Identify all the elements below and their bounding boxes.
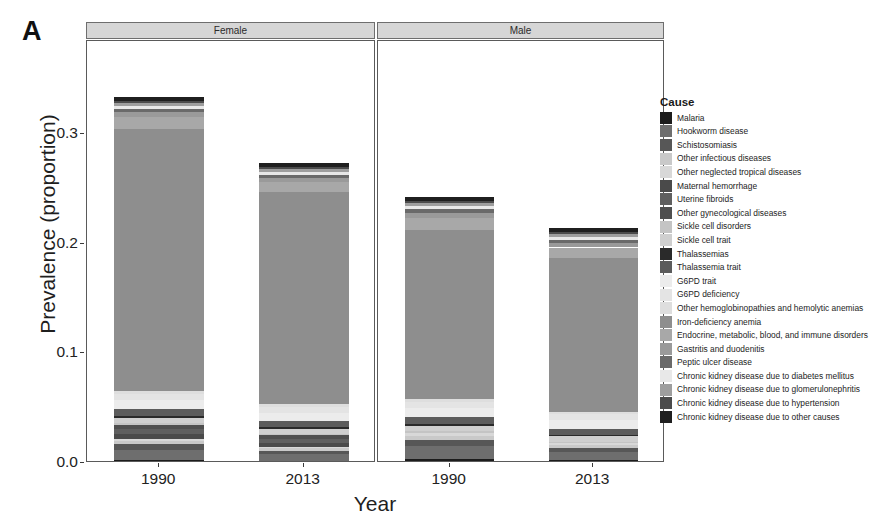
bar-segment[interactable] (549, 258, 638, 411)
legend-item[interactable]: Chronic kidney disease due to diabetes m… (660, 369, 870, 383)
bar-segment[interactable] (259, 169, 349, 172)
bar-segment[interactable] (549, 448, 638, 452)
bar-segment[interactable] (405, 230, 494, 399)
bar-segment[interactable] (114, 418, 204, 423)
bar-segment[interactable] (114, 444, 204, 449)
bar-segment[interactable] (259, 434, 349, 436)
stacked-bar[interactable] (259, 41, 349, 461)
legend-item[interactable]: Malaria (660, 111, 870, 125)
bar-segment[interactable] (259, 404, 349, 407)
bar-segment[interactable] (114, 460, 204, 461)
bar-segment[interactable] (405, 436, 494, 440)
bar-segment[interactable] (549, 436, 638, 441)
bar-segment[interactable] (259, 447, 349, 449)
bar-segment[interactable] (405, 459, 494, 461)
bar-segment[interactable] (259, 439, 349, 443)
bar-segment[interactable] (114, 394, 204, 401)
legend-item[interactable]: Maternal hemorrhage (660, 179, 870, 193)
bar-segment[interactable] (259, 435, 349, 439)
bar-segment[interactable] (259, 427, 349, 429)
bar-segment[interactable] (114, 434, 204, 438)
legend-item[interactable]: Peptic ulcer disease (660, 356, 870, 370)
bar-segment[interactable] (405, 446, 494, 459)
legend-item[interactable]: Sickle cell disorders (660, 220, 870, 234)
bar-segment[interactable] (259, 167, 349, 169)
bar-segment[interactable] (114, 429, 204, 434)
bar-segment[interactable] (114, 106, 204, 109)
legend-item[interactable]: Uterine fibroids (660, 193, 870, 207)
bar-segment[interactable] (405, 424, 494, 426)
bar-segment[interactable] (114, 103, 204, 106)
bar-segment[interactable] (114, 450, 204, 460)
bar-segment[interactable] (259, 192, 349, 404)
bar-segment[interactable] (114, 101, 204, 103)
bar-segment[interactable] (405, 203, 494, 206)
bar-segment[interactable] (259, 163, 349, 167)
bar-segment[interactable] (259, 175, 349, 177)
legend-item[interactable]: Gastritis and duodenitis (660, 342, 870, 356)
bar-segment[interactable] (405, 213, 494, 218)
bar-segment[interactable] (549, 443, 638, 445)
bar-segment[interactable] (259, 413, 349, 421)
legend-item[interactable]: Chronic kidney disease due to hypertensi… (660, 396, 870, 410)
legend-item[interactable]: Other gynecological diseases (660, 206, 870, 220)
bar-segment[interactable] (259, 429, 349, 434)
stacked-bar[interactable] (114, 41, 204, 461)
bar-segment[interactable] (405, 433, 494, 436)
bar-segment[interactable] (259, 443, 349, 446)
bar-segment[interactable] (259, 448, 349, 450)
bar-segment[interactable] (549, 445, 638, 448)
bar-segment[interactable] (114, 423, 204, 425)
bar-segment[interactable] (114, 129, 204, 391)
legend-item[interactable]: Hookworm disease (660, 125, 870, 139)
bar-segment[interactable] (114, 425, 204, 429)
bar-segment[interactable] (405, 426, 494, 431)
bar-segment[interactable] (549, 435, 638, 437)
bar-segment[interactable] (405, 206, 494, 209)
bar-segment[interactable] (114, 117, 204, 129)
bar-segment[interactable] (549, 420, 638, 428)
legend-item[interactable]: Other hemoglobinopathies and hemolytic a… (660, 301, 870, 315)
bar-segment[interactable] (114, 400, 204, 409)
stacked-bar[interactable] (405, 41, 494, 461)
bar-segment[interactable] (549, 414, 638, 420)
bar-segment[interactable] (549, 232, 638, 234)
bar-segment[interactable] (405, 218, 494, 230)
legend-item[interactable]: Sickle cell trait (660, 233, 870, 247)
bar-segment[interactable] (259, 451, 349, 454)
bar-segment[interactable] (405, 431, 494, 433)
legend-item[interactable]: Chronic kidney disease due to glomerulon… (660, 383, 870, 397)
bar-segment[interactable] (259, 407, 349, 413)
bar-segment[interactable] (549, 412, 638, 415)
bar-segment[interactable] (549, 248, 638, 259)
bar-segment[interactable] (114, 391, 204, 394)
bar-segment[interactable] (405, 197, 494, 201)
stacked-bar[interactable] (549, 41, 638, 461)
legend-item[interactable]: Endocrine, metabolic, blood, and immune … (660, 329, 870, 343)
legend-item[interactable]: Other neglected tropical diseases (660, 165, 870, 179)
legend-item[interactable]: Iron-deficiency anemia (660, 315, 870, 329)
bar-segment[interactable] (405, 417, 494, 424)
bar-segment[interactable] (549, 429, 638, 435)
bar-segment[interactable] (549, 234, 638, 237)
bar-segment[interactable] (259, 454, 349, 461)
bar-segment[interactable] (114, 409, 204, 416)
legend-item[interactable]: Schistosomiasis (660, 138, 870, 152)
legend-item[interactable]: G6PD trait (660, 274, 870, 288)
bar-segment[interactable] (405, 402, 494, 409)
bar-segment[interactable] (114, 112, 204, 117)
bar-segment[interactable] (549, 442, 638, 444)
bar-segment[interactable] (259, 421, 349, 427)
legend-item[interactable]: Chronic kidney disease due to other caus… (660, 410, 870, 424)
bar-segment[interactable] (259, 172, 349, 175)
bar-segment[interactable] (549, 243, 638, 248)
bar-segment[interactable] (114, 439, 204, 441)
bar-segment[interactable] (549, 240, 638, 243)
bar-segment[interactable] (549, 228, 638, 232)
bar-segment[interactable] (549, 452, 638, 460)
bar-segment[interactable] (405, 440, 494, 447)
bar-segment[interactable] (405, 408, 494, 417)
bar-segment[interactable] (114, 441, 204, 444)
bar-segment[interactable] (114, 109, 204, 112)
legend-item[interactable]: Other infectious diseases (660, 152, 870, 166)
